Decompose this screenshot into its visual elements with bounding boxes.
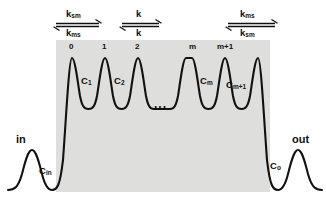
well-label-c2: C2 — [114, 76, 125, 87]
port-label-in: in — [16, 134, 26, 145]
rate-label-internal-forward: k — [136, 9, 141, 20]
barrier-label-m: m — [189, 43, 196, 51]
port-label-out: out — [292, 134, 309, 145]
arrow-backward-internal-head — [120, 27, 126, 31]
barrier-label-0: 0 — [69, 43, 73, 51]
arrow-forward-internal-head — [156, 20, 162, 24]
rate-label-exit-backward: ksm — [240, 28, 255, 39]
energy-profile-figure: ksm kms k k kms ksm 0 1 2 m m+1 C1 C2 Cm… — [0, 0, 326, 202]
arrow-forward-exit-head — [272, 20, 278, 24]
well-label-cin: Cin — [39, 166, 52, 177]
barrier-label-1: 1 — [102, 43, 106, 51]
arrow-backward-exit-head — [226, 27, 232, 31]
rate-label-entry-backward: kms — [66, 28, 81, 39]
arrow-forward-entry-head — [96, 20, 102, 24]
barrier-label-m-plus-1: m+1 — [217, 43, 233, 51]
well-label-cm-plus-1: Cm+1 — [226, 80, 246, 91]
rate-label-entry-forward: ksm — [66, 9, 81, 20]
membrane-band — [56, 40, 270, 192]
ellipsis-label: ... — [154, 98, 167, 110]
barrier-label-2: 2 — [135, 43, 139, 51]
well-label-cm: Cm — [200, 76, 213, 87]
well-label-co: Co — [270, 161, 281, 172]
rate-label-internal-backward: k — [136, 28, 141, 39]
arrow-backward-entry-head — [54, 27, 60, 31]
well-label-c1: C1 — [81, 76, 92, 87]
rate-label-exit-forward: kms — [240, 9, 255, 20]
